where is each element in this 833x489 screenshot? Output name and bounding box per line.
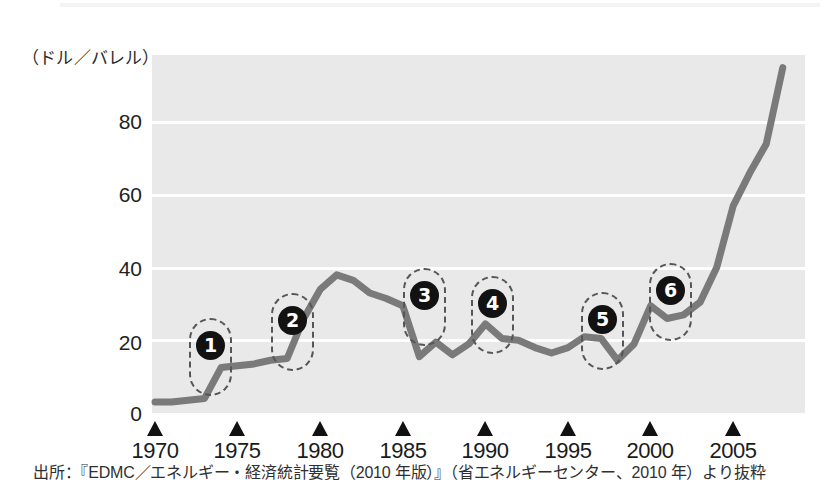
x-tick-triangle-icon-1970 xyxy=(147,421,163,436)
x-tick-triangle-icon-1995 xyxy=(560,421,576,436)
x-tick-triangle-icon-1985 xyxy=(395,421,411,436)
callout-badge-1: 1 xyxy=(196,331,225,360)
callout-badge-3: 3 xyxy=(410,281,439,310)
page-root: （ドル／バレル） 806040200 197019751980198519901… xyxy=(0,0,833,489)
callout-badge-6: 6 xyxy=(656,276,685,305)
callout-badge-2: 2 xyxy=(278,306,307,335)
oil-price-chart-figure: （ドル／バレル） 806040200 197019751980198519901… xyxy=(0,0,833,489)
x-tick-triangle-icon-1990 xyxy=(477,421,493,436)
x-axis: 19701975198019851990199520002005 xyxy=(0,0,833,489)
x-tick-triangle-icon-1975 xyxy=(229,421,245,436)
source-note: 出所：『EDMC／エネルギー・経済統計要覧（2010 年版）』（省エネルギーセン… xyxy=(33,459,765,483)
x-tick-triangle-icon-2005 xyxy=(725,421,741,436)
x-tick-triangle-icon-1980 xyxy=(312,421,328,436)
callout-badge-4: 4 xyxy=(478,289,507,318)
callout-badge-5: 5 xyxy=(588,305,617,334)
x-tick-triangle-icon-2000 xyxy=(642,421,658,436)
